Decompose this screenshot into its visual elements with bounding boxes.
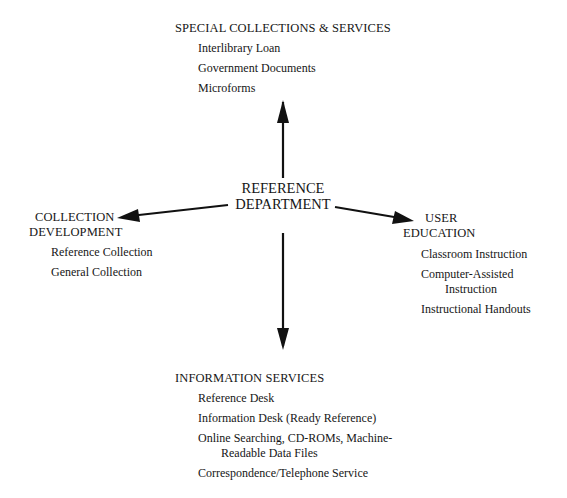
node-heading-line1: USER: [425, 211, 457, 226]
list-item: Information Desk (Ready Reference): [198, 411, 376, 426]
list-item: Classroom Instruction: [421, 247, 527, 262]
list-item: Microforms: [198, 81, 255, 96]
center-title-line2: DEPARTMENT: [226, 196, 340, 212]
list-item: General Collection: [51, 265, 142, 280]
node-heading-line1: COLLECTION: [35, 210, 114, 225]
center-title-line1: REFERENCE: [226, 180, 340, 196]
node-heading-line2: EDUCATION: [403, 226, 475, 241]
list-item: Reference Desk: [198, 391, 274, 406]
list-item: Interlibrary Loan: [198, 41, 280, 56]
center-node: REFERENCE DEPARTMENT: [226, 180, 340, 212]
arrow-left: [117, 205, 228, 222]
list-item: Instruction: [445, 282, 497, 297]
list-item: Instructional Handouts: [421, 302, 531, 317]
node-heading: INFORMATION SERVICES: [175, 371, 324, 386]
arrow-right: [335, 207, 414, 224]
list-item: Readable Data Files: [221, 446, 318, 461]
arrow-up: [277, 100, 289, 178]
list-item: Reference Collection: [51, 245, 153, 260]
node-heading-line2: DEVELOPMENT: [29, 225, 122, 240]
arrow-down: [277, 233, 289, 350]
list-item: Government Documents: [198, 61, 316, 76]
list-item: Correspondence/Telephone Service: [198, 466, 368, 481]
list-item: Computer-Assisted: [421, 267, 513, 282]
node-heading: SPECIAL COLLECTIONS & SERVICES: [175, 21, 391, 36]
list-item: Online Searching, CD-ROMs, Machine-: [198, 431, 392, 446]
